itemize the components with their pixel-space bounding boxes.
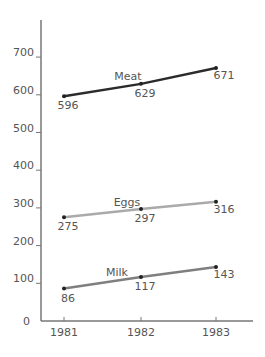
y-tick-label: 300: [13, 197, 34, 210]
data-label: 117: [135, 280, 156, 293]
y-tick-label: 500: [13, 122, 34, 135]
data-label: 86: [61, 292, 75, 305]
data-label: 671: [214, 69, 235, 82]
data-label: 316: [214, 203, 235, 216]
x-tick-label: 1983: [202, 326, 230, 339]
data-label: 275: [58, 220, 79, 233]
x-tick-label: 1981: [50, 326, 78, 339]
y-tick-label: 200: [13, 235, 34, 248]
series-eggs: 275297316Eggs: [58, 196, 235, 234]
series-lines: 596629671Meat275297316Eggs86117143Milk: [58, 66, 235, 305]
y-tick-label: 600: [13, 84, 34, 97]
data-point: [62, 94, 66, 98]
y-ticks: 0100200300400500600700: [13, 46, 41, 328]
series-meat: 596629671Meat: [58, 66, 235, 112]
data-label: 629: [135, 87, 156, 100]
y-tick-label: 0: [23, 315, 30, 328]
series-name-label: Meat: [114, 70, 142, 83]
series-name-label: Milk: [106, 266, 129, 279]
data-point: [62, 215, 66, 219]
data-label: 596: [58, 99, 79, 112]
y-tick-label: 400: [13, 159, 34, 172]
line-chart: 0100200300400500600700 198119821983 5966…: [0, 0, 265, 357]
data-point: [62, 287, 66, 291]
data-label: 297: [135, 212, 156, 225]
data-label: 143: [214, 268, 235, 281]
series-milk: 86117143Milk: [61, 265, 235, 304]
x-tick-label: 1982: [127, 326, 155, 339]
data-point: [139, 275, 143, 279]
y-tick-label: 100: [13, 272, 34, 285]
series-name-label: Eggs: [114, 196, 141, 209]
y-tick-label: 700: [13, 46, 34, 59]
